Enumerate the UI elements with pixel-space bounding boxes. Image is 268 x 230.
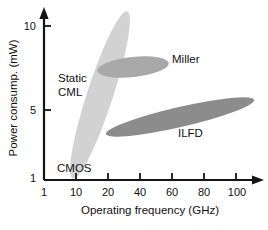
region-label-cmos: CMOS xyxy=(57,162,92,174)
region-label-static-cml-line2: CML xyxy=(58,86,83,98)
x-axis-arrow-icon xyxy=(252,175,264,184)
x-axis-title: Operating frequency (GHz) xyxy=(81,204,219,216)
x-tick-label-80: 80 xyxy=(198,186,210,198)
x-tick-label-10: 10 xyxy=(70,186,82,198)
chart-canvas: 10 5 1 1 10 20 40 60 80 100 Operating fr… xyxy=(0,0,268,230)
x-tick-label-1: 1 xyxy=(41,186,47,198)
x-tick-label-40: 40 xyxy=(134,186,146,198)
chart-figure: 10 5 1 1 10 20 40 60 80 100 Operating fr… xyxy=(0,0,268,230)
y-tick-label-5: 5 xyxy=(30,104,36,116)
y-axis-title: Power consump. (mW) xyxy=(7,39,19,156)
plot-regions xyxy=(60,7,256,182)
region-label-static-cml-line1: Static xyxy=(58,72,87,84)
x-tick-label-20: 20 xyxy=(102,186,114,198)
y-axis-arrow-icon xyxy=(39,7,48,19)
y-tick-label-1: 1 xyxy=(30,172,36,184)
region-label-miller: Miller xyxy=(172,53,200,65)
x-tick-label-100: 100 xyxy=(228,186,246,198)
y-tick-label-10: 10 xyxy=(24,20,36,32)
x-tick-label-60: 60 xyxy=(166,186,178,198)
region-label-ilfd: ILFD xyxy=(178,127,203,139)
